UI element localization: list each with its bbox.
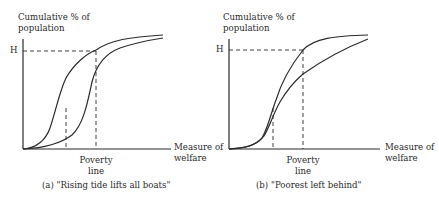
poverty-label-line1: Poverty bbox=[76, 155, 116, 166]
x-axis-label-a: Measure of welfare bbox=[174, 142, 223, 164]
x-axis-label-b: Measure of welfare bbox=[385, 142, 434, 164]
x-label-line2: welfare bbox=[174, 153, 223, 164]
h-label-a: H bbox=[10, 45, 18, 56]
curve-b-before bbox=[229, 35, 368, 149]
y-axis-label-b: Cumulative % of population bbox=[223, 12, 295, 34]
caption-a: (a) "Rising tide lifts all boats" bbox=[42, 180, 170, 190]
curve-a-after bbox=[23, 35, 163, 149]
y-label-line1: Cumulative % of bbox=[18, 12, 90, 23]
poverty-label-b: Poverty line bbox=[283, 155, 323, 177]
x-label-line1: Measure of bbox=[385, 142, 434, 153]
y-label-line2: population bbox=[18, 23, 90, 34]
y-label-line2: population bbox=[223, 23, 295, 34]
x-label-line1: Measure of bbox=[174, 142, 223, 153]
y-axis-label-a: Cumulative % of population bbox=[18, 12, 90, 34]
poverty-label-line1: Poverty bbox=[283, 155, 323, 166]
x-label-line2: welfare bbox=[385, 153, 434, 164]
curve-a-before bbox=[23, 38, 163, 149]
h-label-b: H bbox=[216, 44, 224, 55]
poverty-label-line2: line bbox=[76, 166, 116, 177]
y-label-line1: Cumulative % of bbox=[223, 12, 295, 23]
caption-b: (b) "Poorest left behind" bbox=[256, 180, 362, 190]
poverty-label-a: Poverty line bbox=[76, 155, 116, 177]
poverty-label-line2: line bbox=[283, 166, 323, 177]
